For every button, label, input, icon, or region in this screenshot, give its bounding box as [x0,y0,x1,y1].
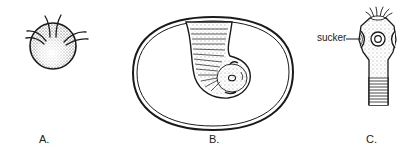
tapeworm-stages-illustration [0,0,405,153]
panel-label-a: A. [39,133,49,145]
panel-label-c: C. [366,133,377,145]
sucker-callout: sucker [317,32,346,43]
panel-c-scolex [346,7,396,105]
panel-a-oncosphere [26,15,88,69]
panel-b-cysticercus [133,17,293,130]
panel-label-b: B. [209,133,219,145]
